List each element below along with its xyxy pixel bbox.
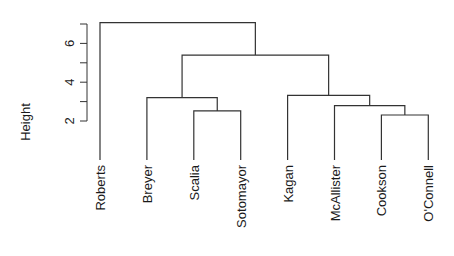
leaf-label: Cookson: [374, 165, 389, 216]
leaf-label: Breyer: [140, 164, 155, 203]
dendrogram-branch: [100, 23, 255, 160]
dendrogram-branch: [147, 98, 217, 160]
leaf-label: McAllister: [328, 164, 343, 221]
dendrogram-branch: [182, 55, 329, 98]
leaf-label: Sotomayor: [234, 164, 249, 228]
dendrogram-branch: [194, 111, 241, 160]
dendrogram-chart: 246 Height RobertsBreyerScaliaSotomayorK…: [0, 0, 454, 256]
leaf-label: Scalia: [187, 164, 202, 200]
leaf-label: O'Connell: [421, 165, 436, 222]
y-axis-label: Height: [18, 103, 33, 141]
dendrogram-branch: [335, 106, 405, 160]
leaf-labels: RobertsBreyerScaliaSotomayorKaganMcAllis…: [93, 164, 436, 228]
y-tick-label: 2: [62, 117, 77, 124]
y-tick-label: 4: [62, 79, 77, 86]
dendrogram-tree: [100, 23, 428, 160]
leaf-label: Roberts: [93, 165, 108, 211]
leaf-label: Kagan: [281, 165, 296, 203]
dendrogram-branch: [381, 115, 428, 160]
y-tick-label: 6: [62, 40, 77, 47]
y-axis: 246: [62, 24, 87, 125]
